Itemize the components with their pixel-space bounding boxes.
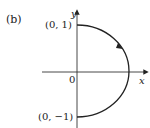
diagram-canvas <box>0 0 150 128</box>
x-axis-label: x <box>139 76 145 86</box>
point-label-top: (0, 1) <box>45 20 72 30</box>
panel-label: (b) <box>6 14 22 25</box>
parametric-curve-figure: (b) y x 0 (0, 1) (0, −1) <box>0 0 150 128</box>
point-label-bottom: (0, −1) <box>38 112 73 122</box>
semicircle-curve <box>77 25 129 117</box>
y-axis-label: y <box>71 9 77 19</box>
origin-label: 0 <box>69 75 75 85</box>
